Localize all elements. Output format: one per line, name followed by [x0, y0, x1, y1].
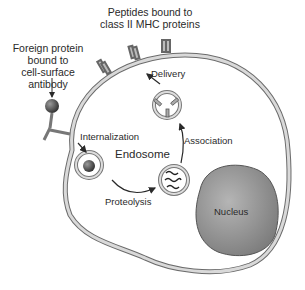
- peptide-vesicle: [160, 166, 188, 194]
- antigen-sphere: [45, 99, 59, 113]
- label-association: Association: [184, 135, 233, 147]
- internalization-arrow: [78, 143, 86, 152]
- diagram-canvas: Peptides bound to class II MHC proteins …: [0, 0, 305, 290]
- label-delivery: Delivery: [151, 68, 185, 80]
- label-endosome: Endosome: [115, 148, 170, 160]
- endosome: [76, 152, 102, 178]
- mhc-vesicle: [154, 92, 180, 118]
- label-internalization: Internalization: [80, 131, 139, 143]
- label-foreign-protein: Foreign protein bound to cell-surface an…: [3, 42, 93, 90]
- label-peptides-mhc: Peptides bound to class II MHC proteins: [70, 6, 230, 30]
- association-arrow: [180, 124, 183, 163]
- label-nucleus: Nucleus: [214, 206, 248, 218]
- proteolysis-arrow: [112, 180, 155, 193]
- label-proteolysis: Proteolysis: [105, 196, 151, 208]
- endosome-antigen: [83, 160, 95, 172]
- antibody-antigen-complex: [44, 99, 70, 140]
